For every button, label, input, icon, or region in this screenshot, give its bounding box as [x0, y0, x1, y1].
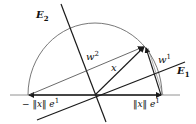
label-norm-e1: ‖x‖ e1 [133, 98, 160, 109]
e2-line [61, 4, 106, 122]
label-e1: E1 [177, 66, 190, 78]
label-w2: w2 [86, 51, 99, 62]
label-e2: E2 [36, 10, 49, 22]
label-x: x [111, 63, 117, 73]
label-w1: w1 [158, 54, 171, 65]
label-neg-norm-e1: − ‖x‖ e1 [22, 98, 59, 109]
